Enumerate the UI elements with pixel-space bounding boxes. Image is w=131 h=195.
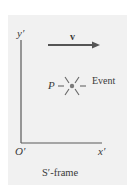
origin-label: O′: [15, 146, 25, 157]
velocity-label: v: [70, 32, 75, 42]
velocity-arrow-icon: [48, 42, 100, 49]
x-axis-label: x′: [98, 146, 105, 157]
event-label: Event: [92, 76, 115, 86]
y-axis-label: y′: [17, 28, 24, 39]
frame-label: S′-frame: [42, 168, 78, 179]
event-point-label: P: [48, 80, 55, 91]
starburst-icon: [58, 77, 86, 95]
